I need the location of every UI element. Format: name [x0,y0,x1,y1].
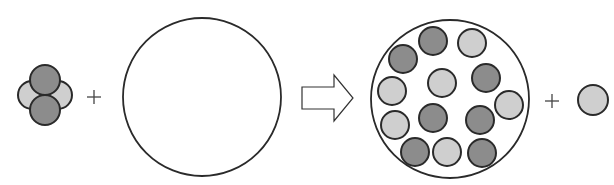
reaction-arrow-icon [302,75,353,121]
dark-particle [401,138,429,166]
dark-particle [389,45,417,73]
light-particle [433,138,461,166]
empty-container-circle [123,18,281,176]
plus-sign-icon [87,90,101,104]
light-particle [381,111,409,139]
product-particle [578,85,608,115]
dark-particle [30,95,60,125]
light-particle [378,77,406,105]
light-particle [495,91,523,119]
reactant-cluster [18,65,72,125]
filled-container-circle [371,20,529,178]
dark-particle [468,139,496,167]
light-particle [578,85,608,115]
reaction-diagram [0,0,614,185]
plus-sign-icon [545,94,559,108]
dark-particle [30,65,60,95]
dark-particle [466,106,494,134]
light-particle [428,69,456,97]
dark-particle [419,104,447,132]
light-particle [458,29,486,57]
dark-particle [419,27,447,55]
dark-particle [472,64,500,92]
